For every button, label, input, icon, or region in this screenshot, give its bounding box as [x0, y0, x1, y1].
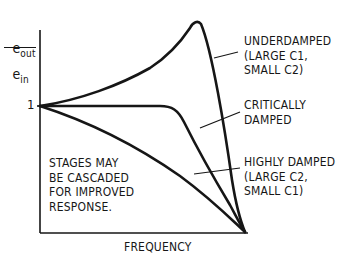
annotation-critically-damped: CRITICALLY DAMPED	[244, 98, 306, 127]
y-tick-label-1: 1	[27, 98, 35, 113]
x-axis-label: FREQUENCY	[124, 240, 192, 255]
y-label-fraction-bar	[4, 47, 36, 48]
note-cascaded-stages: STAGES MAY BE CASCADED FOR IMPROVED RESP…	[49, 156, 134, 214]
leader-underdamped	[214, 52, 238, 58]
annotation-underdamped: UNDERDAMPED (LARGE C1, SMALL C2)	[244, 34, 331, 78]
y-label-denominator: ein	[4, 52, 29, 87]
leader-highly-damped	[194, 168, 240, 174]
y-den-sub: in	[20, 73, 29, 84]
leader-critically-damped	[200, 112, 240, 128]
annotation-highly-damped: HIGHLY DAMPED (LARGE C2, SMALL C1)	[244, 155, 335, 199]
